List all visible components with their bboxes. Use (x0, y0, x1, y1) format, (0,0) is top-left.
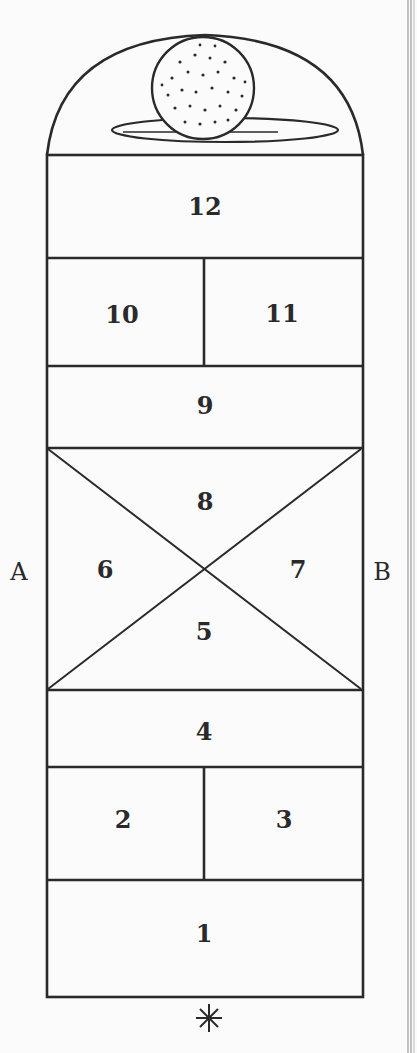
square-11: 11 (265, 299, 298, 328)
square-1: 1 (196, 919, 213, 948)
square-6: 6 (97, 555, 114, 584)
side-label-b: B (373, 558, 391, 586)
square-5: 5 (196, 617, 213, 646)
start-star-icon (196, 1004, 222, 1032)
hopscotch-diagram: 12 10 11 9 8 6 7 5 4 2 3 1 A B (0, 0, 417, 1053)
square-8: 8 (197, 487, 214, 516)
square-2: 2 (115, 805, 132, 834)
side-label-a: A (9, 558, 28, 586)
square-10: 10 (105, 300, 138, 329)
court-outline (47, 35, 363, 997)
square-3: 3 (276, 805, 293, 834)
square-7: 7 (290, 555, 307, 584)
ball (152, 37, 254, 139)
square-12: 12 (188, 192, 221, 221)
page-border (408, 0, 414, 1053)
square-4: 4 (196, 717, 213, 746)
square-9: 9 (197, 391, 214, 420)
